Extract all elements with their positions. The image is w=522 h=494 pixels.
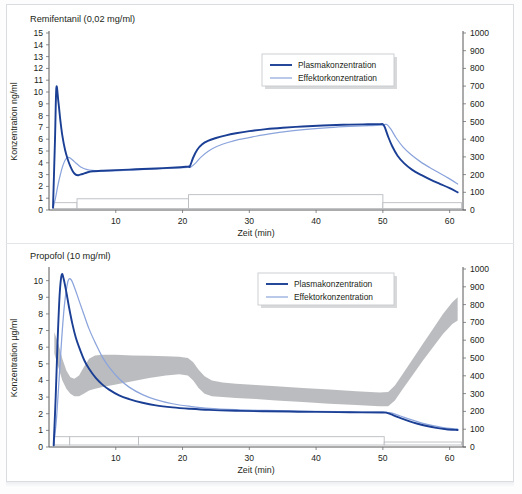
- y2-tick-label: 0: [470, 205, 475, 215]
- y2-tick-label: 900: [470, 282, 485, 292]
- infusion-bar-segment: [383, 203, 462, 209]
- infusion-bar-segment: [70, 437, 139, 445]
- y-axis-title: Konzentration ng/ml: [9, 82, 19, 160]
- remifentanil-chart-svg: Remifentanil (0,02 mg/ml)012345678910111…: [0, 0, 508, 240]
- chart-title: Remifentanil (0,02 mg/ml): [30, 14, 135, 24]
- x-tick-label: 10: [111, 453, 121, 463]
- y-tick-label: 10: [33, 276, 43, 286]
- y-tick-label: 2: [38, 181, 43, 191]
- x-tick-label: 40: [311, 216, 321, 226]
- y2-tick-label: 700: [470, 317, 485, 327]
- y2-tick-label: 500: [470, 117, 485, 127]
- x-tick-label: 20: [178, 453, 188, 463]
- y2-tick-label: 900: [470, 46, 485, 56]
- x-tick-label: 20: [178, 216, 188, 226]
- infusion-bar-segment: [189, 195, 383, 209]
- y-tick-label: 0: [38, 205, 43, 215]
- y2-tick-label: 300: [470, 152, 485, 162]
- y-tick-label: 5: [38, 359, 43, 369]
- y-tick-label: 1: [38, 425, 43, 435]
- chart-panel-remifentanil: Remifentanil (0,02 mg/ml)012345678910111…: [0, 0, 508, 240]
- y2-tick-label: 800: [470, 300, 485, 310]
- y2-tick-label: 1000: [470, 264, 489, 274]
- legend-label-1: Plasmakonzentration: [294, 279, 373, 289]
- y2-tick-label: 200: [470, 170, 485, 180]
- figure-page: Remifentanil (0,02 mg/ml)012345678910111…: [0, 0, 522, 494]
- y-tick-label: 15: [33, 28, 43, 38]
- y-tick-label: 14: [33, 40, 43, 50]
- y-tick-label: 7: [38, 326, 43, 336]
- infusion-bar-segment: [384, 442, 461, 445]
- propofol-chart-svg: Propofol (10 mg/ml)012345678910010020030…: [0, 241, 508, 478]
- y-tick-label: 4: [38, 158, 43, 168]
- y-tick-label: 9: [38, 99, 43, 109]
- y-tick-label: 1: [38, 193, 43, 203]
- y-tick-label: 4: [38, 375, 43, 385]
- y-tick-label: 5: [38, 146, 43, 156]
- legend-label-1: Plasmakonzentration: [298, 60, 377, 70]
- infusion-bar-segment: [54, 437, 69, 445]
- y2-tick-label: 800: [470, 63, 485, 73]
- y-tick-label: 6: [38, 134, 43, 144]
- x-tick-label: 50: [378, 453, 388, 463]
- x-tick-label: 30: [245, 216, 255, 226]
- y2-tick-label: 700: [470, 81, 485, 91]
- y2-tick-label: 100: [470, 187, 485, 197]
- infusion-bar-group: [54, 437, 461, 445]
- y-tick-label: 8: [38, 309, 43, 319]
- infusion-bar-segment: [54, 203, 77, 209]
- y-tick-label: 12: [33, 63, 43, 73]
- x-axis-title: Zeit (min): [237, 228, 274, 238]
- x-tick-label: 50: [378, 216, 388, 226]
- legend-label-2: Effektorkonzentration: [298, 73, 377, 83]
- infusion-bar-segment: [138, 437, 384, 445]
- concentration-band: [54, 297, 457, 406]
- y-tick-label: 0: [38, 442, 43, 452]
- y2-tick-label: 1000: [470, 28, 489, 38]
- y-tick-label: 3: [38, 392, 43, 402]
- y-tick-label: 11: [34, 75, 43, 85]
- y-tick-label: 2: [38, 409, 43, 419]
- y2-tick-label: 400: [470, 134, 485, 144]
- series-line-plasma: [53, 86, 458, 207]
- y-tick-label: 6: [38, 342, 43, 352]
- y2-tick-label: 0: [470, 442, 475, 452]
- y-tick-label: 13: [33, 52, 43, 62]
- y-tick-label: 8: [38, 111, 43, 121]
- y2-tick-label: 600: [470, 335, 485, 345]
- y-tick-label: 7: [38, 122, 43, 132]
- legend-label-2: Effektorkonzentration: [294, 292, 373, 302]
- x-tick-label: 10: [111, 216, 121, 226]
- x-tick-label: 60: [445, 453, 455, 463]
- x-tick-label: 30: [245, 453, 255, 463]
- infusion-bar-group: [54, 195, 462, 209]
- y2-tick-label: 200: [470, 406, 485, 416]
- y2-tick-label: 500: [470, 353, 485, 363]
- y2-tick-label: 600: [470, 99, 485, 109]
- x-axis-title: Zeit (min): [237, 465, 274, 475]
- y-tick-label: 3: [38, 170, 43, 180]
- x-tick-label: 60: [445, 216, 455, 226]
- y2-tick-label: 400: [470, 371, 485, 381]
- y2-tick-label: 100: [470, 424, 485, 434]
- y-tick-label: 9: [38, 292, 43, 302]
- y-axis-title: Konzentration µg/ml: [9, 319, 19, 397]
- chart-panel-propofol: Propofol (10 mg/ml)012345678910010020030…: [0, 241, 508, 478]
- y2-tick-label: 300: [470, 389, 485, 399]
- infusion-bar-segment: [77, 199, 189, 209]
- y-tick-label: 10: [33, 87, 43, 97]
- x-tick-label: 40: [311, 453, 321, 463]
- page-shadow: [6, 482, 514, 488]
- chart-title: Propofol (10 mg/ml): [30, 251, 111, 261]
